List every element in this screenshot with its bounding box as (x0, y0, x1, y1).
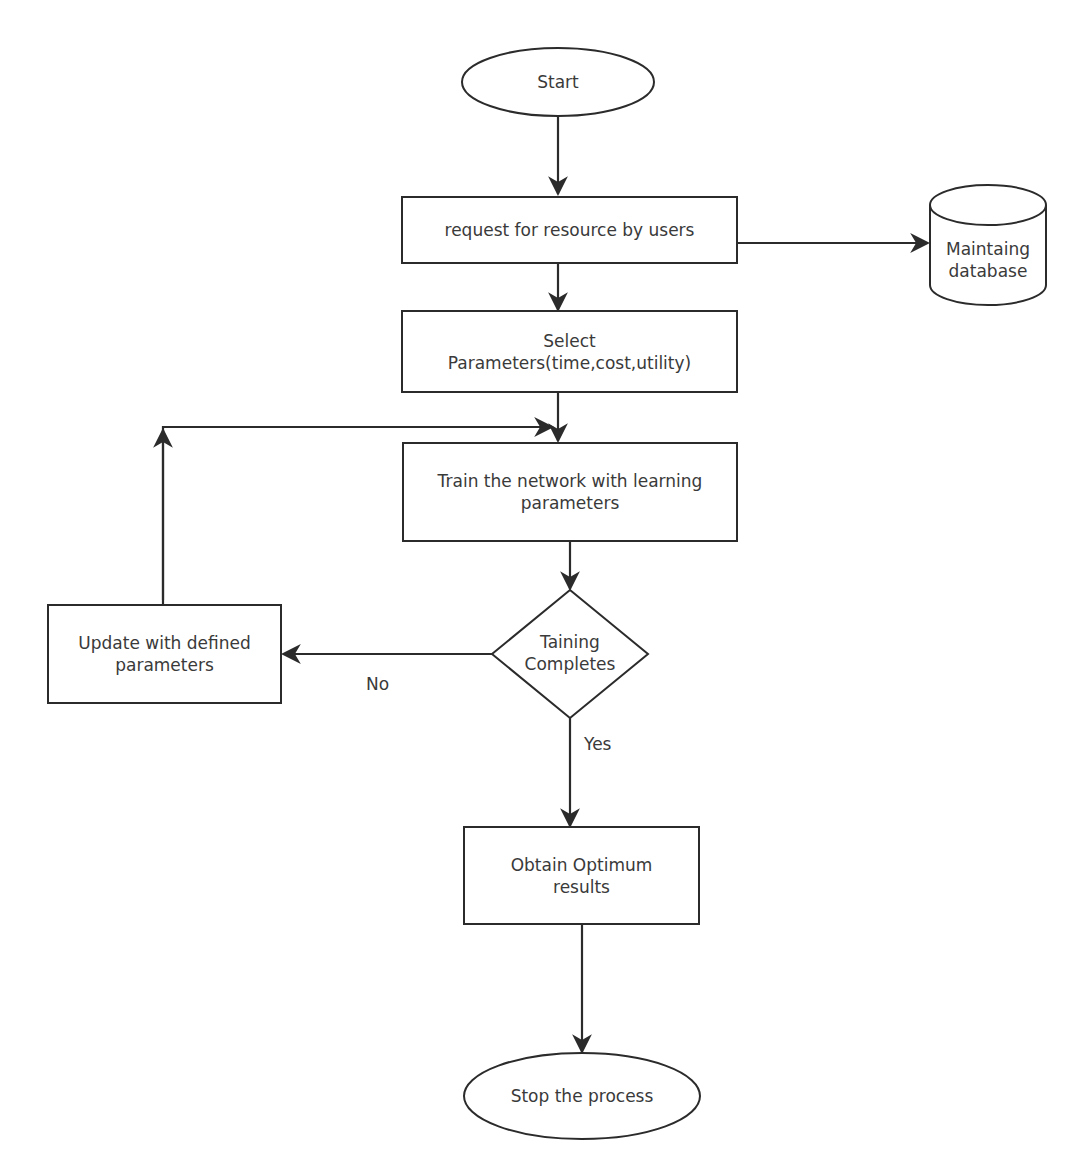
stop-node: Stop the process (464, 1053, 700, 1139)
stop-label: Stop the process (511, 1085, 654, 1107)
obtain-label-line2: results (553, 876, 610, 898)
train-label-line2: parameters (521, 492, 620, 514)
update-label-line1: Update with defined (78, 632, 250, 654)
select-label-line2: Parameters(time,cost,utility) (448, 352, 691, 374)
update-label-line2: parameters (115, 654, 214, 676)
train-network-node: Train the network with learning paramete… (402, 442, 738, 542)
flowchart-canvas: Start request for resource by users Main… (0, 0, 1092, 1175)
no-edge-label: No (366, 674, 389, 694)
train-label-line1: Train the network with learning (438, 470, 703, 492)
select-label-line1: Select (543, 330, 595, 352)
database-label-line2: database (949, 260, 1028, 282)
start-node: Start (462, 48, 654, 116)
request-node: request for resource by users (401, 196, 738, 264)
select-parameters-node: Select Parameters(time,cost,utility) (401, 310, 738, 393)
database-node: Maintaing database (930, 230, 1046, 290)
request-label: request for resource by users (445, 219, 695, 241)
obtain-results-node: Obtain Optimum results (463, 826, 700, 925)
database-label-line1: Maintaing (946, 238, 1030, 260)
start-label: Start (537, 71, 579, 93)
obtain-label-line1: Obtain Optimum (511, 854, 653, 876)
update-parameters-node: Update with defined parameters (47, 604, 282, 704)
yes-edge-label: Yes (584, 734, 611, 754)
decision-label-line2: Completes (525, 653, 616, 675)
decision-node: Taining Completes (505, 628, 635, 678)
decision-label-line1: Taining (540, 631, 600, 653)
flowchart-edges (0, 0, 1092, 1175)
